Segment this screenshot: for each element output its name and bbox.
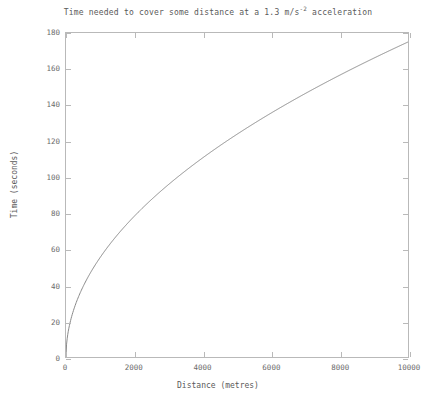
y-tick-label: 60 [22,245,60,254]
x-axis-label: Distance (metres) [0,381,436,390]
y-tick-mark [66,69,71,70]
x-tick-label: 0 [63,363,68,372]
y-tick-label: 120 [22,136,60,145]
plot-area [65,32,409,358]
y-tick-mark [66,287,71,288]
y-tick-mark-right [403,214,408,215]
y-tick-mark-right [403,69,408,70]
x-tick-mark [135,352,136,357]
x-tick-label: 8000 [331,363,349,372]
y-tick-label: 100 [22,172,60,181]
x-tick-mark [66,352,67,357]
y-tick-label: 40 [22,281,60,290]
x-tick-label: 6000 [262,363,280,372]
x-tick-mark [272,352,273,357]
y-tick-mark [66,178,71,179]
x-tick-mark [204,352,205,357]
y-tick-mark-right [403,178,408,179]
y-tick-label: 20 [22,317,60,326]
y-tick-mark-right [403,33,408,34]
y-tick-mark-right [403,359,408,360]
x-tick-label: 10000 [398,363,421,372]
chart-title: Time needed to cover some distance at a … [0,8,436,17]
chart-title-text: Time needed to cover some distance at a … [64,8,300,17]
y-tick-mark [66,105,71,106]
x-tick-mark-top [341,33,342,38]
x-tick-label: 2000 [125,363,143,372]
y-tick-label: 180 [22,28,60,37]
y-tick-label: 0 [22,354,60,363]
x-tick-mark-top [272,33,273,38]
x-tick-mark-top [410,33,411,38]
data-curve [66,33,408,357]
x-tick-mark [341,352,342,357]
y-tick-label: 140 [22,100,60,109]
chart-page: Time needed to cover some distance at a … [0,0,436,409]
chart-title-suffix: acceleration [307,8,372,17]
y-axis-label: Time (seconds) [10,135,19,235]
x-tick-mark [410,352,411,357]
y-tick-mark [66,323,71,324]
y-tick-mark-right [403,142,408,143]
y-tick-mark [66,142,71,143]
y-tick-label: 160 [22,64,60,73]
y-tick-mark [66,214,71,215]
y-tick-mark [66,250,71,251]
x-tick-mark-top [135,33,136,38]
y-tick-mark [66,359,71,360]
x-tick-mark-top [204,33,205,38]
x-tick-label: 4000 [194,363,212,372]
y-tick-mark-right [403,105,408,106]
y-tick-label: 80 [22,209,60,218]
y-tick-mark-right [403,287,408,288]
y-tick-mark-right [403,323,408,324]
y-tick-mark-right [403,250,408,251]
x-tick-mark-top [66,33,67,38]
chart-title-exponent: -2 [299,5,307,12]
